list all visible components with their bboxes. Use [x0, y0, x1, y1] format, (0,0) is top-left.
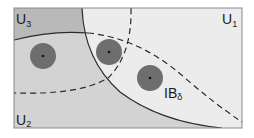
- ball-2-center: [108, 51, 111, 54]
- ball-3-center: [149, 77, 152, 80]
- open-cover-diagram: U3 U1 U2 IBδ: [0, 0, 254, 138]
- ball-1-center: [42, 55, 45, 58]
